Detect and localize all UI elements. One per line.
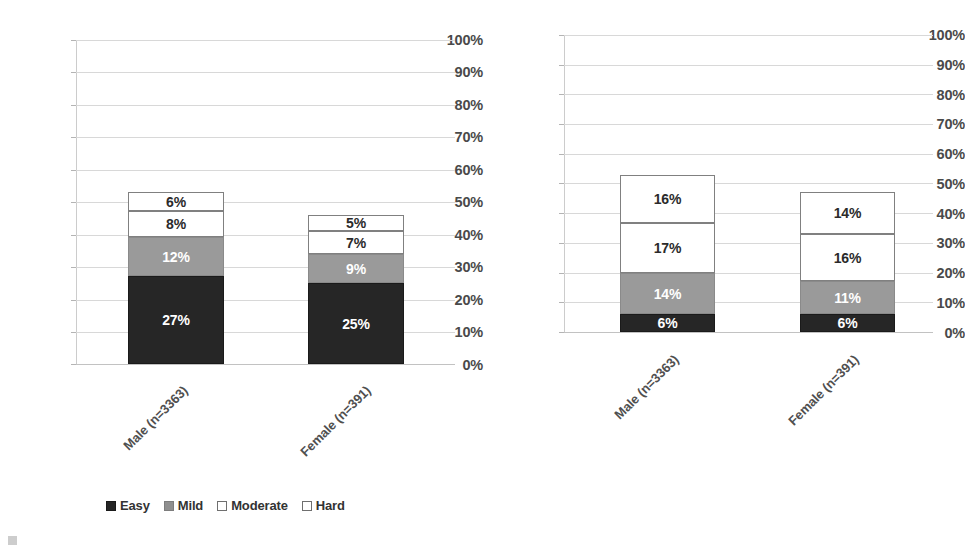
bar-segment-hard[interactable]: 5% (308, 215, 404, 231)
y-tick-mark (71, 40, 76, 41)
legend-label: Moderate (231, 498, 288, 513)
y-tick-mark (559, 243, 564, 244)
y-tick-mark (71, 202, 76, 203)
x-axis-label-female: Female (n=391) (278, 383, 373, 478)
legend-exercise-intensity: Easy Mild Moderate Hard (106, 498, 406, 513)
y-tick-mark (559, 332, 564, 333)
bar-segment-easy[interactable]: 25% (308, 283, 404, 364)
gridline-100 (564, 35, 933, 36)
y-tick-mark (71, 300, 76, 301)
gridline-80 (564, 94, 933, 95)
y-tick-mark (559, 273, 564, 274)
y-tick-mark (71, 72, 76, 73)
y-tick-mark (559, 35, 564, 36)
legend-item-moderate[interactable]: Moderate (217, 498, 288, 513)
legend-item-easy[interactable]: Easy (106, 498, 150, 513)
bar-segment-mild[interactable]: 12% (128, 237, 224, 276)
bar-segment-almost-everyday[interactable]: 14% (800, 192, 895, 234)
gridline-70 (564, 124, 933, 125)
bar-segment-easy[interactable]: 27% (128, 276, 224, 364)
y-tick-mark (71, 332, 76, 333)
legend-item-mild[interactable]: Mild (164, 498, 203, 513)
bar-segment-almost-everyday[interactable]: 16% (620, 175, 715, 223)
y-tick-mark (71, 170, 76, 171)
legend-label: Mild (178, 498, 203, 513)
bar-stack-female[interactable]: 5% 7% 9% 25% (308, 215, 404, 364)
y-tick-mark (71, 267, 76, 268)
y-tick-mark (559, 94, 564, 95)
bar-segment-hard[interactable]: 6% (128, 192, 224, 211)
gridline-90 (564, 65, 933, 66)
legend-label: Easy (120, 498, 150, 513)
bar-stack-male[interactable]: 16% 17% 14% 6% (620, 175, 715, 332)
bar-segment-2-3-times-week[interactable]: 16% (800, 234, 895, 281)
legend-swatch-icon (217, 501, 227, 511)
gridline-100 (76, 40, 455, 41)
legend-swatch-icon (106, 501, 116, 511)
legend-swatch-icon (164, 501, 174, 511)
bar-segment-moderate[interactable]: 8% (128, 211, 224, 237)
gridline-60 (76, 170, 455, 171)
bar-segment-once-week[interactable]: 11% (800, 281, 895, 314)
bar-stack-male[interactable]: 6% 8% 12% 27% (128, 192, 224, 364)
bar-segment-1-2-times-month[interactable]: 6% (620, 314, 715, 332)
gridline-70 (76, 137, 455, 138)
bar-segment-once-week[interactable]: 14% (620, 273, 715, 314)
y-tick-mark (559, 124, 564, 125)
bar-segment-2-3-times-week[interactable]: 17% (620, 223, 715, 273)
chart-exercise-intensity: 100% 90% 80% 70% 60% 50% 40% 30% 20% 10%… (0, 0, 483, 552)
gridline-80 (76, 105, 455, 106)
bar-stack-female[interactable]: 14% 16% 11% 6% (800, 192, 895, 332)
y-tick-mark (71, 364, 76, 365)
gridline-90 (76, 72, 455, 73)
x-axis-label-female: Female (n=391) (766, 352, 861, 447)
legend-swatch-icon (302, 501, 312, 511)
y-tick-mark (71, 137, 76, 138)
bar-segment-moderate[interactable]: 7% (308, 231, 404, 254)
y-axis-line (564, 35, 565, 333)
x-axis-label-male: Male (n=3363) (586, 352, 681, 447)
gridline-0 (564, 332, 933, 333)
y-tick-mark (71, 235, 76, 236)
plot-area: 16% 17% 14% 6% 14% 16% 11% 6% (564, 35, 933, 333)
plot-area: 6% 8% 12% 27% 5% 7% 9% 25% (76, 40, 455, 365)
bar-segment-mild[interactable]: 9% (308, 254, 404, 283)
y-tick-mark (559, 154, 564, 155)
y-tick-mark (559, 65, 564, 66)
chart-exercise-frequency: 100% 90% 80% 70% 60% 50% 40% 30% 20% 10%… (483, 0, 965, 552)
gridline-0 (76, 364, 455, 365)
scan-artifact (8, 536, 17, 545)
y-tick-mark (559, 213, 564, 214)
y-tick-mark (559, 183, 564, 184)
gridline-60 (564, 154, 933, 155)
bar-segment-1-2-times-month[interactable]: 6% (800, 314, 895, 332)
y-tick-mark (71, 105, 76, 106)
legend-label: Hard (316, 498, 345, 513)
x-axis-label-male: Male (n=3363) (95, 383, 190, 478)
y-tick-mark (559, 302, 564, 303)
legend-item-hard[interactable]: Hard (302, 498, 345, 513)
